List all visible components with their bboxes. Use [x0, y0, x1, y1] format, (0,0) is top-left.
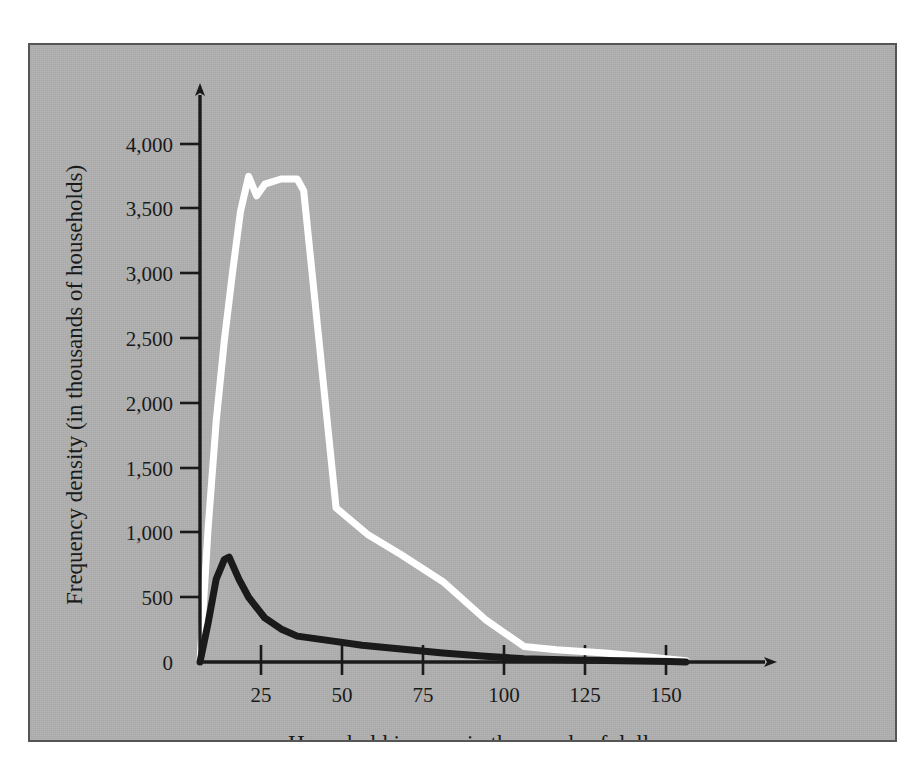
y-tick-label-2500: 2,500	[126, 327, 173, 351]
series-line-white	[200, 176, 686, 662]
x-tick-label-50: 50	[332, 683, 353, 707]
y-tick-label-500: 500	[142, 586, 174, 610]
y-tick-label-4000: 4,000	[126, 133, 173, 157]
y-tick-label-3500: 3,500	[126, 197, 173, 221]
line-chart-plot: 4,000 3,500 3,000 2,500 2,000 1,500 1,00…	[30, 45, 897, 742]
x-tick-label-150: 150	[650, 683, 682, 707]
y-axis-title: Frequency density (in thousands of house…	[62, 165, 87, 605]
x-tick-label-125: 125	[569, 683, 601, 707]
y-tick-label-1500: 1,500	[126, 457, 173, 481]
x-axis-tick-labels: 25 50 75 100 125 150	[251, 683, 682, 707]
y-tick-label-0: 0	[163, 651, 174, 675]
y-tick-label-3000: 3,000	[126, 262, 173, 286]
y-tick-label-2000: 2,000	[126, 392, 173, 416]
y-tick-label-1000: 1,000	[126, 521, 173, 545]
x-tick-label-75: 75	[413, 683, 434, 707]
figure-root: 4,000 3,500 3,000 2,500 2,000 1,500 1,00…	[0, 0, 921, 764]
chart-panel: 4,000 3,500 3,000 2,500 2,000 1,500 1,00…	[28, 43, 897, 742]
y-axis-ticks	[180, 144, 200, 597]
x-axis-title: Household income in thousands of dollars	[288, 731, 676, 742]
series-line-black	[200, 557, 686, 662]
x-tick-label-100: 100	[488, 683, 520, 707]
x-tick-label-25: 25	[251, 683, 272, 707]
y-axis-tick-labels: 4,000 3,500 3,000 2,500 2,000 1,500 1,00…	[126, 133, 173, 675]
